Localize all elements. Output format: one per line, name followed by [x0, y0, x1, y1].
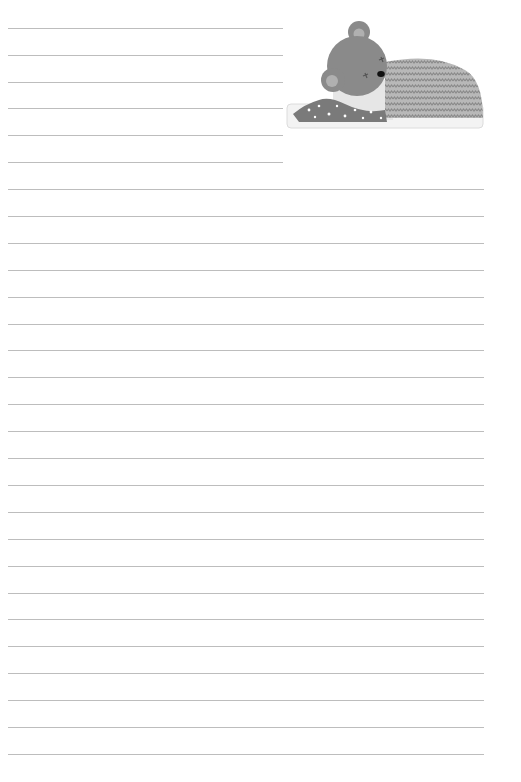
- ruled-line: [8, 324, 484, 325]
- ruled-line-short: [8, 135, 283, 136]
- ruled-line: [8, 619, 484, 620]
- sleeping-bear-icon: [285, 18, 485, 130]
- ruled-line: [8, 539, 484, 540]
- ruled-line: [8, 243, 484, 244]
- ruled-line: [8, 673, 484, 674]
- ruled-line: [8, 404, 484, 405]
- ruled-line: [8, 270, 484, 271]
- ruled-line: [8, 700, 484, 701]
- ruled-line: [8, 350, 484, 351]
- ruled-line-short: [8, 28, 283, 29]
- ruled-line-short: [8, 55, 283, 56]
- ruled-line: [8, 189, 484, 190]
- ruled-line: [8, 377, 484, 378]
- ruled-line-short: [8, 162, 283, 163]
- ruled-line: [8, 754, 484, 755]
- ruled-line: [8, 727, 484, 728]
- ruled-line-short: [8, 82, 283, 83]
- ruled-line: [8, 431, 484, 432]
- ruled-line: [8, 593, 484, 594]
- ruled-line-short: [8, 108, 283, 109]
- ruled-line: [8, 485, 484, 486]
- ruled-line: [8, 458, 484, 459]
- ruled-line: [8, 216, 484, 217]
- ruled-line: [8, 512, 484, 513]
- ruled-line: [8, 646, 484, 647]
- ruled-line: [8, 566, 484, 567]
- ruled-line: [8, 297, 484, 298]
